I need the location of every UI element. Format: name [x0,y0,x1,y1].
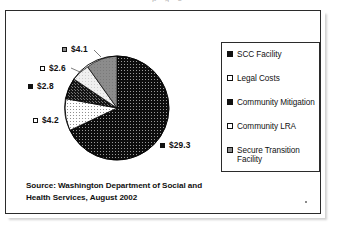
swatch-white-icon [33,118,38,123]
legend-item-label: Legal Costs [237,74,280,83]
leader-line-transition [94,50,101,57]
data-label-secure-transition-facility: $4.1 [62,44,88,54]
legend-item-label: SCC Facility [237,50,281,59]
data-label-value: $29.3 [169,140,190,150]
legend-swatch-gray-icon [227,147,233,153]
legend-item-label: Community Mitigation [237,98,315,107]
legend-item-legal-costs: Legal Costs [227,74,315,98]
data-label-value: $4.2 [42,115,59,125]
swatch-black-icon [28,84,33,89]
data-label-value: $2.8 [37,81,54,91]
swatch-black-icon [160,143,165,148]
legend-swatch-black-icon [227,99,233,105]
data-label-value: $2.6 [49,63,66,73]
leader-line-lra [71,68,80,72]
legend-item-scc-facility: SCC Facility [227,50,315,74]
data-label-value: $4.1 [71,44,88,54]
legend-item-community-mitigation: Community Mitigation [227,98,315,122]
data-label-scc-facility: $29.3 [160,140,190,150]
chart-legend: SCC Facility Legal Costs Community Mitig… [221,42,320,172]
legend-item-secure-transition-facility: Secure Transition Facility [227,146,315,170]
source-note: Source: Washington Department of Social … [26,180,226,203]
data-label-legal-costs: $4.2 [33,115,59,125]
legend-item-label: Secure Transition Facility [237,146,315,164]
legend-swatch-white-icon [227,123,233,129]
legend-swatch-white-icon [227,75,233,81]
swatch-gray-icon [62,47,67,52]
legend-item-label: Community LRA [237,122,296,131]
legend-item-community-lra: Community LRA [227,122,315,146]
scan-speck [305,201,307,203]
legend-swatch-black-icon [227,51,233,57]
data-label-community-lra: $2.6 [40,63,66,73]
swatch-white-icon [40,66,45,71]
data-label-community-mitigation: $2.8 [28,81,54,91]
